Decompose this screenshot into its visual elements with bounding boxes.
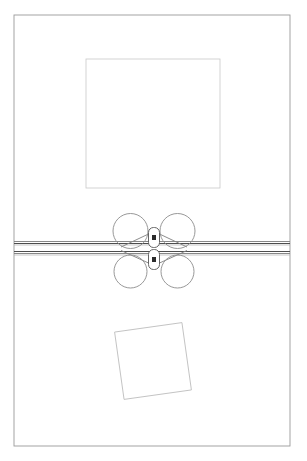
drawing-canvas: Mechanical Assembly Line Drawing xyxy=(0,0,307,461)
latch-lower-mark xyxy=(152,257,156,262)
line-drawing xyxy=(0,0,307,461)
latch-upper-mark xyxy=(152,235,156,240)
latch-upper xyxy=(149,228,160,248)
latch-lower xyxy=(149,250,160,270)
